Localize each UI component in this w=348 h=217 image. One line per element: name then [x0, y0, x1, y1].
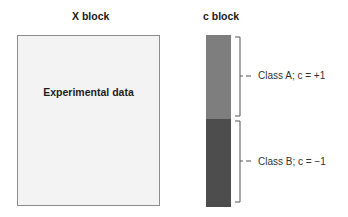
bracket-graphics — [0, 0, 348, 217]
class-a-bracket-icon — [235, 37, 243, 116]
class-b-bracket-icon — [235, 121, 243, 202]
class-a-label: Class A; c = +1 — [258, 70, 325, 81]
class-b-label: Class B; c = −1 — [258, 156, 326, 167]
